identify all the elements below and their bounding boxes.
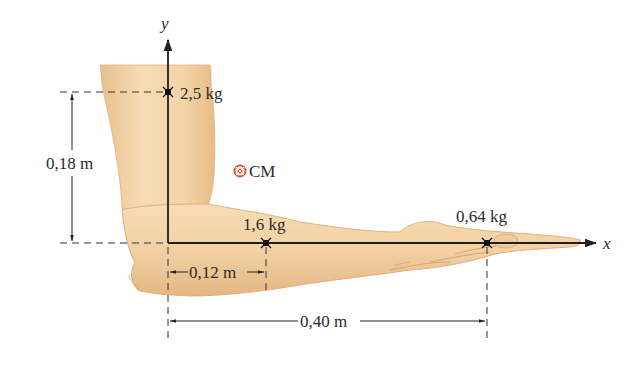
x-axis-label: x — [602, 234, 611, 253]
thumb-shape — [494, 234, 518, 248]
dim-label-hand-distance: 0,40 m — [300, 312, 347, 331]
mass-label-hand: 0,64 kg — [456, 207, 508, 226]
forearm-shape — [122, 204, 581, 296]
mass-label-forearm: 1,6 kg — [243, 215, 286, 234]
center-of-mass-label: CM — [249, 162, 275, 181]
y-axis-label: y — [159, 14, 169, 33]
dim-label-upper-arm-height: 0,18 m — [46, 154, 93, 173]
arm-center-of-mass-diagram: y x 2,5 kg 1,6 kg 0,64 kg CM — [0, 0, 636, 372]
center-of-mass: CM — [235, 162, 276, 181]
center-of-mass-icon — [235, 166, 246, 177]
dim-label-forearm-distance: 0,12 m — [189, 263, 236, 282]
arm-illustration — [100, 65, 581, 296]
mass-label-upper-arm: 2,5 kg — [180, 84, 223, 103]
